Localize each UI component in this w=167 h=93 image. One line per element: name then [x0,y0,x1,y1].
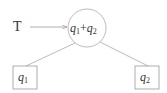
diagram-canvas: T q1+q2 q1 q2 [0,0,167,93]
left-leaf-label: q1 [18,70,28,85]
right-leaf-label: q2 [140,70,150,85]
edge-left [26,43,75,66]
input-label: T [13,19,22,34]
root-node-label: q1+q2 [70,21,97,36]
edge-right [100,42,148,66]
